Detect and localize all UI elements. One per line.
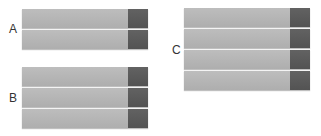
bar-segment-dark <box>290 8 310 27</box>
bar-segment-light <box>22 88 128 107</box>
bar-segment-light <box>184 29 290 48</box>
bar-segment-dark <box>290 29 310 48</box>
bar-segment-light <box>22 67 128 86</box>
stacked-bar <box>184 29 310 48</box>
bar-segment-dark <box>128 88 148 107</box>
bar-segment-dark <box>128 67 148 86</box>
group-label-c: C <box>172 44 181 56</box>
stacked-bar <box>22 67 148 86</box>
bar-segment-light <box>184 8 290 27</box>
bar-segment-light <box>22 9 128 28</box>
bar-segment-light <box>22 109 128 128</box>
bar-segment-dark <box>290 50 310 69</box>
bar-group-b <box>22 67 148 129</box>
bar-segment-light <box>184 50 290 69</box>
bar-segment-dark <box>290 71 310 90</box>
bar-group-a <box>22 9 148 50</box>
bar-segment-dark <box>128 109 148 128</box>
stacked-bar <box>184 8 310 27</box>
group-label-a: A <box>9 23 17 35</box>
bar-segment-light <box>22 30 128 49</box>
bar-segment-dark <box>128 9 148 28</box>
bar-group-c <box>184 8 310 92</box>
stacked-bar <box>184 50 310 69</box>
bar-segment-light <box>184 71 290 90</box>
stacked-bar <box>22 88 148 107</box>
group-label-b: B <box>9 92 17 104</box>
stacked-bar <box>22 30 148 49</box>
stacked-bar <box>22 9 148 28</box>
bar-segment-dark <box>128 30 148 49</box>
stacked-bar <box>22 109 148 128</box>
stacked-bar <box>184 71 310 90</box>
